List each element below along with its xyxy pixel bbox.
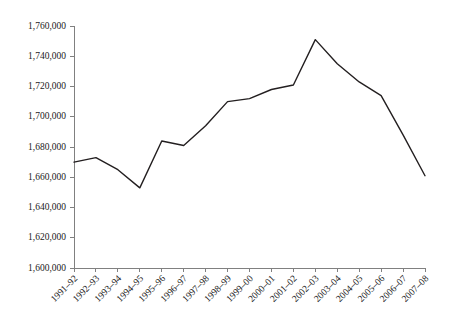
y-axis: 1,600,0001,620,0001,640,0001,660,0001,68… [28, 21, 74, 273]
y-tick-label: 1,660,000 [28, 172, 66, 182]
y-tick-label: 1,600,000 [28, 263, 66, 273]
y-tick-label: 1,700,000 [28, 111, 66, 121]
y-tick-label: 1,640,000 [28, 202, 66, 212]
x-axis: 1991–921992–931993–941994–951995–961996–… [49, 268, 431, 304]
y-tick-label: 1,720,000 [28, 81, 66, 91]
y-tick-label: 1,620,000 [28, 232, 66, 242]
chart-canvas: 1,600,0001,620,0001,640,0001,660,0001,68… [0, 0, 451, 329]
plot-area [74, 40, 425, 188]
data-series-line [74, 40, 425, 188]
y-tick-label: 1,760,000 [28, 21, 66, 31]
y-tick-label: 1,740,000 [28, 51, 66, 61]
y-tick-label: 1,680,000 [28, 142, 66, 152]
line-chart: 1,600,0001,620,0001,640,0001,660,0001,68… [0, 0, 451, 329]
